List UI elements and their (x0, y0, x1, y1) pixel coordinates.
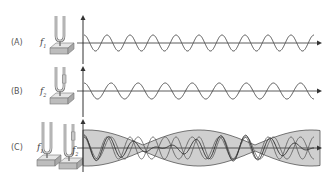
row-c-tuning-fork-2-icon-base-front (59, 163, 77, 169)
row-a-tuning-fork-icon-prongs (56, 16, 64, 41)
row-b-label: (B) (11, 87, 23, 96)
row-c-freq2-label: f2 (72, 145, 79, 157)
row-c-label: (C) (11, 143, 23, 152)
diagram-canvas (0, 0, 333, 182)
row-b-y-arrow-icon (81, 66, 86, 71)
row-b-freq-label: f2 (40, 86, 47, 98)
row-c-tuning-fork-1-icon-prongs (43, 122, 51, 153)
row-c-y-arrow-icon (81, 119, 86, 124)
row-a-tuning-fork-icon-base-front (50, 48, 68, 54)
row-a-y-arrow-icon (81, 15, 86, 20)
row-c-freq1-label: f1 (37, 142, 44, 154)
row-a-label: (A) (11, 38, 23, 47)
row-c-tuning-fork-1-icon-base-front (37, 160, 55, 166)
row-a-freq-label: f1 (40, 37, 47, 49)
row-b-tuning-fork-icon-base-front (50, 98, 68, 104)
row-a-x-arrow-icon (317, 41, 322, 46)
row-b-x-arrow-icon (317, 89, 322, 94)
beats-diagram: (A) f1 (B) f2 (C) f1 f2 (0, 0, 333, 182)
